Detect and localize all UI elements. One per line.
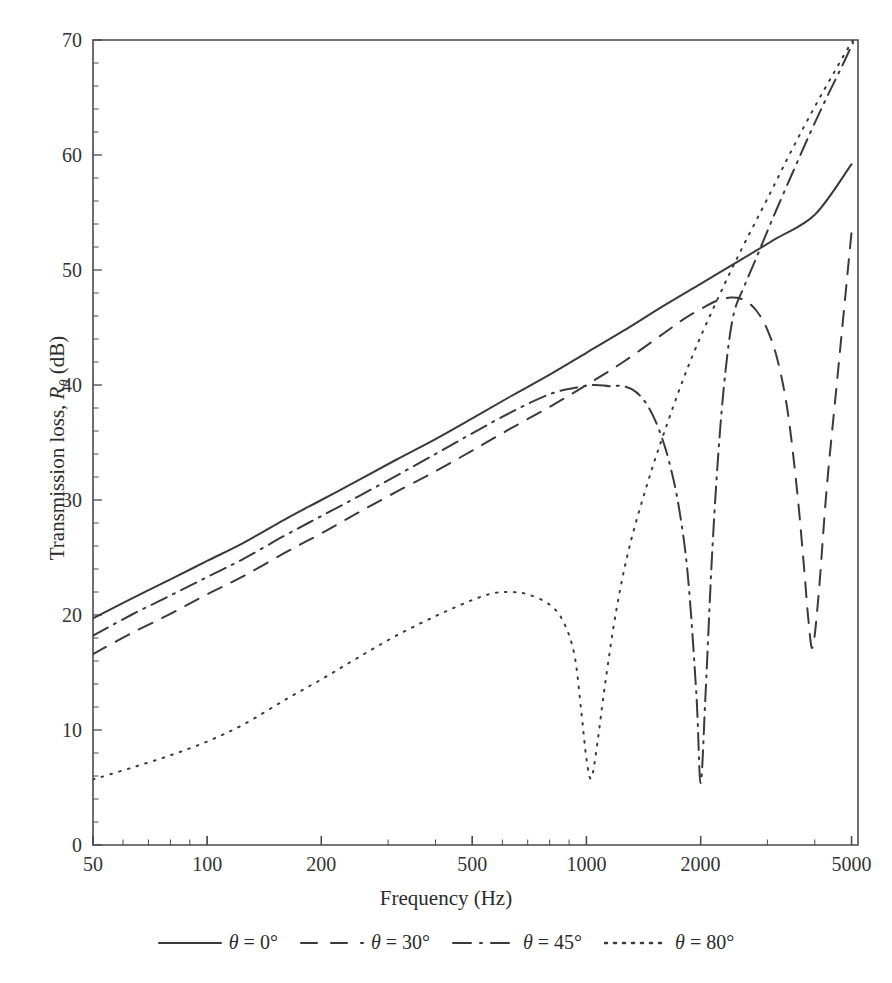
legend-label: θ = 80°: [675, 931, 734, 954]
x-tick-label: 500: [457, 853, 487, 875]
legend-label-text: = 30°: [381, 931, 430, 953]
y-axis-title-suffix: (dB): [45, 336, 69, 380]
series-line-dotted: [93, 39, 855, 779]
legend-label-text: = 0°: [239, 931, 278, 953]
x-tick-label: 5000: [832, 853, 872, 875]
y-axis-title-symbol: R: [45, 387, 69, 400]
legend-label-symbol: θ: [523, 931, 533, 953]
series-line-none: [93, 164, 852, 618]
y-axis-title: Transmission loss, Rθ (dB): [45, 48, 73, 848]
x-tick-label: 1000: [566, 853, 606, 875]
legend-item[interactable]: θ = 30°: [300, 931, 430, 954]
legend-line-sample-dashdot: [452, 936, 516, 950]
legend-line-sample-dashed: [300, 936, 364, 950]
legend-label-symbol: θ: [675, 931, 685, 953]
x-tick-label: 50: [83, 853, 103, 875]
series-line-dashdot: [93, 42, 853, 783]
y-axis-title-subscript: θ: [56, 380, 72, 387]
legend-label-text: = 80°: [685, 931, 734, 953]
chart-legend: θ = 0°θ = 30°θ = 45°θ = 80°: [0, 931, 892, 954]
data-series-group: [93, 39, 855, 783]
x-tick-label: 100: [192, 853, 222, 875]
figure-container: 01020304050607050100200500100020005000 T…: [0, 0, 892, 983]
x-tick-label: 2000: [681, 853, 721, 875]
axis-tick-labels: 01020304050607050100200500100020005000: [62, 29, 872, 875]
x-tick-label: 200: [306, 853, 336, 875]
legend-label-text: = 45°: [533, 931, 582, 953]
y-axis-title-prefix: Transmission loss,: [45, 399, 69, 560]
legend-label: θ = 0°: [229, 931, 278, 954]
legend-line-sample-dotted: [604, 936, 668, 950]
legend-label-symbol: θ: [229, 931, 239, 953]
chart-plot-area: 01020304050607050100200500100020005000: [0, 0, 892, 983]
y-tick-label: 0: [72, 834, 82, 856]
axis-ticks: [93, 40, 852, 845]
legend-label-symbol: θ: [371, 931, 381, 953]
legend-label: θ = 45°: [523, 931, 582, 954]
legend-line-sample-none: [158, 936, 222, 950]
axis-frame: [93, 40, 858, 845]
legend-item[interactable]: θ = 0°: [158, 931, 278, 954]
legend-item[interactable]: θ = 45°: [452, 931, 582, 954]
x-axis-title: Frequency (Hz): [0, 886, 892, 911]
legend-item[interactable]: θ = 80°: [604, 931, 734, 954]
series-line-dashed: [93, 232, 852, 654]
legend-label: θ = 30°: [371, 931, 430, 954]
